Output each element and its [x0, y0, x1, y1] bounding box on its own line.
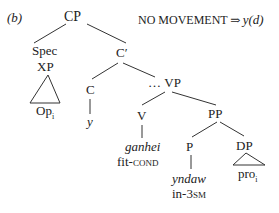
annotation-no-movement: NO MOVEMENT ⇒ y(d)	[138, 13, 264, 26]
annotation-result: y(d)	[243, 12, 264, 27]
ellipsis: …	[148, 75, 161, 90]
pro-label: pro	[238, 166, 255, 181]
vp-label: VP	[164, 75, 181, 90]
node-pro: proi	[238, 167, 258, 184]
p-word-yndaw: yndaw	[172, 172, 206, 185]
node-c: C	[86, 83, 95, 96]
v-gloss-stem: fit-	[117, 154, 133, 169]
v-gloss: fit-cond	[117, 155, 158, 168]
v-word-ganhei: ganhei	[125, 140, 160, 153]
v-gloss-smallcaps: cond	[133, 154, 159, 169]
node-pp: PP	[208, 107, 222, 120]
p-gloss-stem: in-3	[172, 186, 193, 201]
node-p: P	[186, 140, 193, 153]
c-word-y: y	[87, 115, 93, 128]
node-cbar: C′	[116, 46, 128, 59]
node-spec: Spec	[32, 44, 57, 57]
subfigure-label: ((b)b)	[7, 11, 22, 24]
node-vp: … VP	[148, 76, 181, 89]
p-gloss: in-3sm	[172, 187, 206, 200]
node-v: V	[137, 109, 146, 122]
node-op: Opi	[36, 104, 54, 121]
pro-index: i	[255, 175, 257, 184]
implies-arrow-icon: ⇒	[230, 13, 240, 27]
p-gloss-smallcaps: sm	[193, 186, 206, 201]
node-xp: XP	[37, 60, 54, 73]
op-label: Op	[36, 103, 52, 118]
op-index: i	[52, 112, 54, 121]
node-cp: CP	[64, 10, 81, 24]
node-dp: DP	[236, 139, 253, 152]
annotation-text: NO MOVEMENT	[138, 13, 228, 27]
